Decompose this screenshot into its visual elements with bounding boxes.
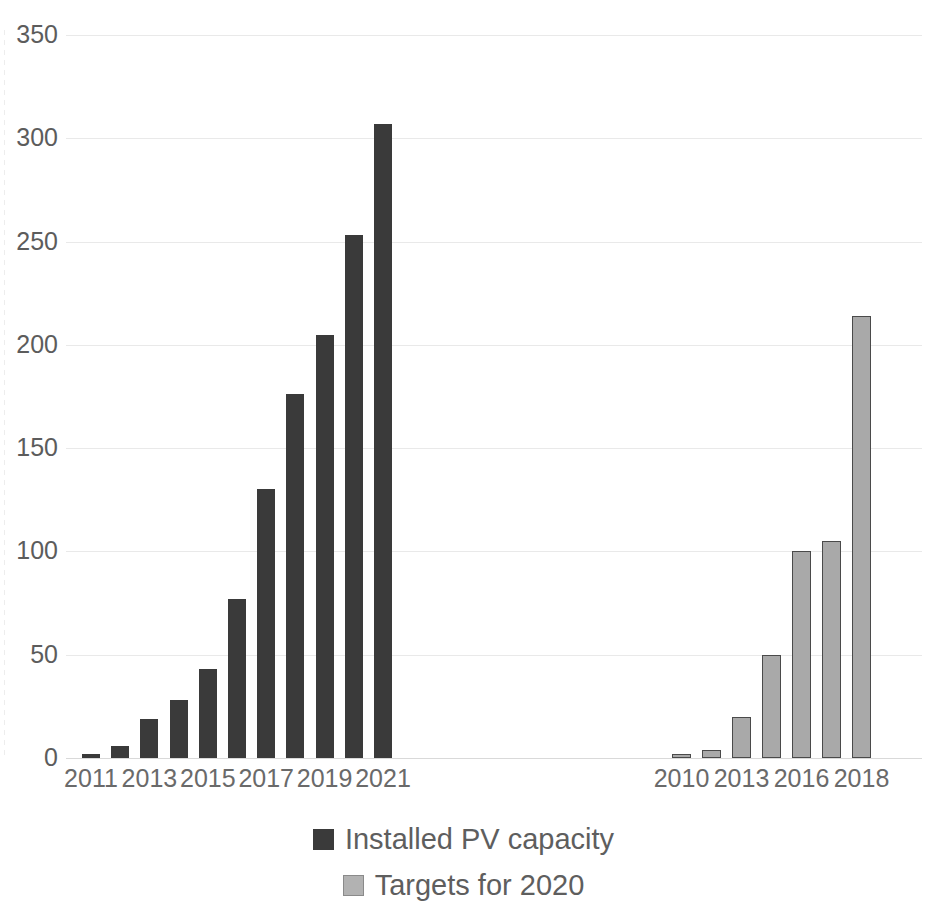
legend-swatch-icon <box>313 829 334 850</box>
legend-label: Targets for 2020 <box>375 871 585 900</box>
x-axis-tick-label: 2017 <box>238 766 294 791</box>
bar <box>140 719 158 758</box>
legend-swatch-icon <box>343 875 364 896</box>
x-axis-tick-label: 2016 <box>774 766 830 791</box>
bar <box>374 124 392 758</box>
bar-chart: 050100150200250300350 201120132015201720… <box>0 0 927 912</box>
bar <box>345 235 363 758</box>
plot-area: 050100150200250300350 201120132015201720… <box>0 0 927 800</box>
bar <box>732 717 751 758</box>
bar <box>111 746 129 758</box>
x-axis-tick-label: 2018 <box>834 766 890 791</box>
bar <box>82 754 100 758</box>
bar <box>228 599 246 758</box>
x-axis-tick-label: 2011 <box>64 766 118 791</box>
bar <box>286 394 304 758</box>
x-axis-tick-label: 2010 <box>654 766 710 791</box>
x-axis-tick-label: 2013 <box>714 766 770 791</box>
bar <box>762 655 781 758</box>
legend-item[interactable]: Installed PV capacity <box>0 816 927 862</box>
bar <box>672 754 691 758</box>
x-axis-tick-label: 2021 <box>355 766 411 791</box>
bar <box>822 541 841 758</box>
bar <box>170 700 188 758</box>
bars-layer <box>0 0 927 758</box>
axis-baseline <box>66 758 922 759</box>
x-axis-tick-label: 2015 <box>180 766 236 791</box>
legend-item[interactable]: Targets for 2020 <box>0 862 927 908</box>
bar <box>702 750 721 758</box>
chart-legend: Installed PV capacityTargets for 2020 <box>0 816 927 908</box>
bar <box>199 669 217 758</box>
x-axis-tick-label: 2013 <box>122 766 178 791</box>
legend-label: Installed PV capacity <box>345 825 614 854</box>
x-axis-tick-label: 2019 <box>297 766 353 791</box>
bar <box>852 316 871 758</box>
bar <box>316 335 334 758</box>
bar <box>792 551 811 758</box>
bar <box>257 489 275 758</box>
